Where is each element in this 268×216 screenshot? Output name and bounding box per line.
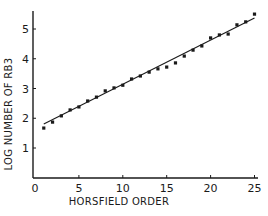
y-tick-label: 3 — [22, 83, 29, 96]
data-point — [42, 126, 45, 129]
data-point — [183, 54, 186, 57]
data-point — [148, 71, 151, 74]
data-point — [121, 84, 124, 87]
x-tick-label: 5 — [75, 182, 82, 195]
data-point — [77, 105, 80, 108]
x-tick-label: 0 — [32, 182, 39, 195]
data-point — [60, 114, 63, 117]
data-point — [165, 65, 168, 68]
x-axis-label: HORSFIELD ORDER — [69, 196, 169, 207]
x-tick-label: 25 — [248, 182, 262, 195]
data-point — [191, 49, 194, 52]
data-point — [253, 13, 256, 16]
data-point — [69, 108, 72, 111]
axes: 12345 0510152025 — [22, 11, 262, 195]
y-tick-label: 5 — [22, 23, 29, 36]
data-point — [209, 36, 212, 39]
data-point — [174, 61, 177, 64]
data-point — [218, 33, 221, 36]
data-points — [42, 13, 256, 130]
y-axis-label: LOG NUMBER OF RB3 — [3, 58, 14, 171]
x-tick-label: 20 — [204, 182, 218, 195]
data-point — [235, 23, 238, 26]
data-point — [104, 89, 107, 92]
data-point — [227, 32, 230, 35]
data-point — [156, 67, 159, 70]
data-point — [95, 96, 98, 99]
data-point — [139, 74, 142, 77]
data-point — [51, 121, 54, 124]
data-point — [112, 86, 115, 89]
data-point — [86, 99, 89, 102]
y-ticks: 12345 — [22, 23, 36, 155]
y-tick-label: 2 — [22, 112, 29, 125]
y-tick-label: 1 — [22, 142, 29, 155]
y-tick-label: 4 — [22, 53, 29, 66]
data-point — [200, 44, 203, 47]
x-tick-label: 15 — [160, 182, 174, 195]
x-tick-label: 10 — [116, 182, 130, 195]
data-point — [130, 77, 133, 80]
data-point — [244, 20, 247, 23]
scatter-chart: 12345 0510152025 HORSFIELD ORDER LOG NUM… — [0, 0, 268, 216]
